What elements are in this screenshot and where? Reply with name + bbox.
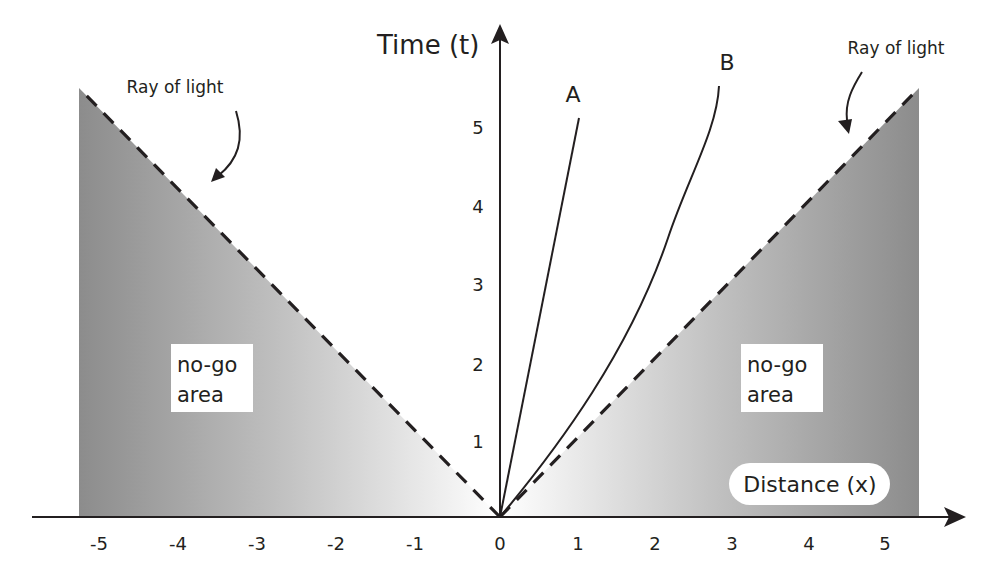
- curve-label-b: B: [719, 50, 734, 75]
- ray-pointer-left-arrowhead-icon: [211, 168, 225, 182]
- x-tick: -1: [406, 533, 424, 554]
- x-tick-labels: -5 -4 -3 -2 -1 0 1 2 3 4 5: [90, 533, 891, 554]
- x-tick: 5: [879, 533, 890, 554]
- y-axis-title: Time (t): [376, 30, 479, 60]
- ray-pointer-left-icon: [218, 111, 240, 176]
- y-tick-labels: 1 2 3 4 5: [472, 117, 483, 452]
- ray-pointer-right-arrowhead-icon: [838, 119, 852, 134]
- y-tick: 1: [472, 431, 483, 452]
- y-tick: 3: [472, 274, 483, 295]
- curve-label-a: A: [565, 82, 580, 107]
- y-tick: 2: [472, 354, 483, 375]
- x-tick: 2: [649, 533, 660, 554]
- ray-pointer-right-icon: [847, 72, 862, 120]
- x-tick: -3: [248, 533, 266, 554]
- ray-label-left: Ray of light: [127, 77, 224, 97]
- x-tick: 1: [572, 533, 583, 554]
- spacetime-diagram: Time (t) Distance (x) Ray of light Ray o…: [0, 0, 1001, 579]
- y-tick: 4: [472, 196, 483, 217]
- nogo-label-right-line1: no-go: [747, 353, 807, 377]
- nogo-label-right-line2: area: [747, 383, 794, 407]
- y-tick: 5: [472, 117, 483, 138]
- x-tick: 0: [494, 533, 505, 554]
- x-tick: -2: [327, 533, 345, 554]
- x-tick: 3: [726, 533, 737, 554]
- nogo-label-left-line1: no-go: [177, 353, 237, 377]
- x-axis-title: Distance (x): [743, 472, 876, 497]
- x-tick: -5: [90, 533, 108, 554]
- x-tick: 4: [803, 533, 814, 554]
- ray-label-right: Ray of light: [848, 38, 945, 58]
- x-tick: -4: [169, 533, 187, 554]
- nogo-label-left-line2: area: [177, 383, 224, 407]
